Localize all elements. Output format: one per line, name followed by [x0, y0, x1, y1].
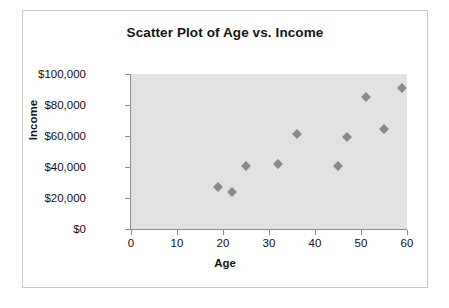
y-axis-tick-label: $20,000: [44, 192, 86, 204]
chart-title: Scatter Plot of Age vs. Income: [23, 25, 427, 40]
x-axis-tick: [177, 230, 178, 235]
x-axis-tick: [269, 230, 270, 235]
x-axis-tick-label: 0: [111, 237, 151, 249]
y-axis-tick: [125, 105, 131, 106]
y-axis-tick: [125, 74, 131, 75]
x-axis-tick-label: 60: [387, 237, 427, 249]
x-axis-title: Age: [23, 257, 427, 269]
y-axis-tick-label: $40,000: [44, 161, 86, 173]
y-axis-tick: [125, 136, 131, 137]
x-axis-tick-label: 30: [249, 237, 289, 249]
y-axis-tick-label: $80,000: [44, 99, 86, 111]
chart-container: Scatter Plot of Age vs. Income $0$20,000…: [22, 10, 428, 288]
x-axis-tick: [407, 230, 408, 235]
y-axis-tick: [125, 198, 131, 199]
x-axis-tick: [361, 230, 362, 235]
y-axis-tick-label: $100,000: [38, 68, 86, 80]
x-axis-tick: [223, 230, 224, 235]
y-axis-title: Income: [27, 100, 39, 140]
y-axis-tick-label: $60,000: [44, 130, 86, 142]
y-axis-line: [130, 74, 131, 230]
y-axis-tick: [125, 167, 131, 168]
x-axis-tick: [315, 230, 316, 235]
y-axis-tick-label: $0: [73, 223, 86, 235]
x-axis-tick: [131, 230, 132, 235]
x-axis-tick-label: 50: [341, 237, 381, 249]
x-axis-tick-label: 20: [203, 237, 243, 249]
x-axis-tick-label: 10: [157, 237, 197, 249]
x-axis-tick-label: 40: [295, 237, 335, 249]
